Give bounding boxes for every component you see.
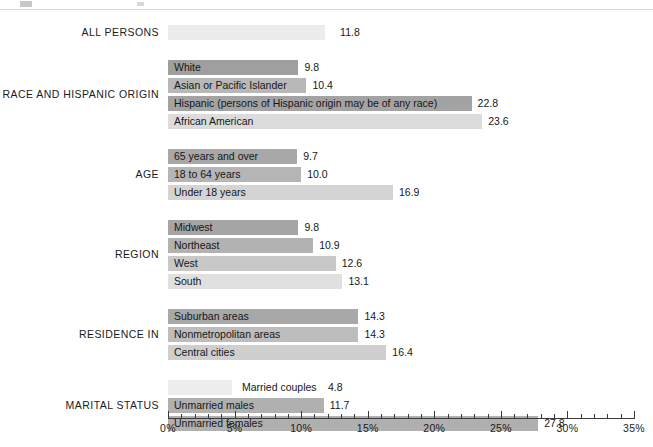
- bar-value-label: 4.8: [328, 380, 343, 395]
- x-axis-minor-tick: [341, 414, 342, 418]
- bar-row: Midwest9.8: [168, 220, 634, 235]
- bar-label: Suburban areas: [174, 309, 249, 324]
- bar-value-label: 22.8: [478, 96, 498, 111]
- x-axis-minor-tick: [594, 414, 595, 418]
- bar-label: West: [174, 256, 198, 271]
- x-axis-major-tick: [634, 411, 635, 418]
- x-axis-minor-tick: [541, 414, 542, 418]
- x-axis-minor-tick: [181, 414, 182, 418]
- x-axis-tick-label: 30%: [556, 422, 578, 434]
- x-axis-minor-tick: [461, 414, 462, 418]
- bar-row: Unmarried males11.7: [168, 398, 634, 413]
- bar-label: White: [174, 60, 201, 75]
- x-axis-major-tick: [501, 411, 502, 418]
- bar-row: Northeast10.9: [168, 238, 634, 253]
- poverty-rate-bar-chart: 11.8ALL PERSONSWhite9.8Asian or Pacific …: [0, 0, 653, 447]
- x-axis-minor-tick: [288, 414, 289, 418]
- x-axis-major-tick: [368, 411, 369, 418]
- x-axis-tick-label: 0%: [160, 422, 176, 434]
- bar-value-label: 11.7: [330, 398, 350, 413]
- group-label-marital-status: MARITAL STATUS: [0, 399, 159, 411]
- bar: [168, 380, 232, 395]
- bar-label: Midwest: [174, 220, 213, 235]
- x-axis-minor-tick: [208, 414, 209, 418]
- x-axis-tick-label: 10%: [290, 422, 312, 434]
- bar-label: Under 18 years: [174, 185, 246, 200]
- group-label-residence-in: RESIDENCE IN: [0, 328, 159, 340]
- x-axis-tick-label: 25%: [490, 422, 512, 434]
- x-axis-minor-tick: [488, 414, 489, 418]
- x-axis-minor-tick: [448, 414, 449, 418]
- x-axis-tick-label: 5%: [227, 422, 243, 434]
- x-axis-minor-tick: [514, 414, 515, 418]
- bar: [168, 25, 325, 40]
- bar-row: Asian or Pacific Islander10.4: [168, 78, 634, 93]
- bar-value-label: 11.8: [340, 25, 360, 40]
- bar-label: 18 to 64 years: [174, 167, 241, 182]
- group-label-region: REGION: [0, 248, 159, 260]
- bar-row: West12.6: [168, 256, 634, 271]
- bar-value-label: 14.3: [364, 309, 384, 324]
- bar-row: Nonmetropolitan areas14.3: [168, 327, 634, 342]
- x-axis-major-tick: [168, 411, 169, 418]
- bar-row: Married couples4.8: [168, 380, 634, 395]
- x-axis-tick-label: 35%: [623, 422, 645, 434]
- bar-value-label: 13.1: [348, 274, 368, 289]
- x-axis-minor-tick: [607, 414, 608, 418]
- bar-value-label: 16.9: [399, 185, 419, 200]
- x-axis-minor-tick: [195, 414, 196, 418]
- x-axis-major-tick: [567, 411, 568, 418]
- x-axis-line: [168, 418, 634, 419]
- x-axis-minor-tick: [581, 414, 582, 418]
- x-axis-minor-tick: [474, 414, 475, 418]
- x-axis-minor-tick: [261, 414, 262, 418]
- x-axis-minor-tick: [527, 414, 528, 418]
- x-axis-minor-tick: [314, 414, 315, 418]
- bar-row: Hispanic (persons of Hispanic origin may…: [168, 96, 634, 111]
- x-axis-minor-tick: [275, 414, 276, 418]
- bar-value-label: 12.6: [342, 256, 362, 271]
- x-axis-minor-tick: [328, 414, 329, 418]
- bar-value-label: 23.6: [488, 114, 508, 129]
- x-axis-tick-label: 15%: [357, 422, 379, 434]
- bar-row: 18 to 64 years10.0: [168, 167, 634, 182]
- bar-label: South: [174, 274, 201, 289]
- x-axis-minor-tick: [394, 414, 395, 418]
- bar-value-label: 9.8: [304, 220, 319, 235]
- x-axis-minor-tick: [221, 414, 222, 418]
- bar-value-label: 9.7: [303, 149, 318, 164]
- bar-row: 65 years and over9.7: [168, 149, 634, 164]
- group-label-age: AGE: [0, 168, 159, 180]
- bar-value-label: 9.8: [304, 60, 319, 75]
- bar-row: South13.1: [168, 274, 634, 289]
- bar-row: Central cities16.4: [168, 345, 634, 360]
- bar-row: 11.8: [168, 25, 634, 40]
- bar-row: Suburban areas14.3: [168, 309, 634, 324]
- bar-label: Unmarried males: [174, 398, 254, 413]
- x-axis-minor-tick: [408, 414, 409, 418]
- group-label-race-and-hispanic-origin: RACE AND HISPANIC ORIGIN: [0, 88, 159, 100]
- x-axis-tick-label: 20%: [423, 422, 445, 434]
- bar-row: African American23.6: [168, 114, 634, 129]
- x-axis-major-tick: [301, 411, 302, 418]
- bar-value-label: 10.0: [307, 167, 327, 182]
- x-axis-minor-tick: [354, 414, 355, 418]
- bar-label: Central cities: [174, 345, 235, 360]
- bar-label: 65 years and over: [174, 149, 258, 164]
- bar-value-label: 16.4: [392, 345, 412, 360]
- x-axis-minor-tick: [554, 414, 555, 418]
- x-axis-minor-tick: [621, 414, 622, 418]
- x-axis-major-tick: [235, 411, 236, 418]
- bar-value-label: 10.4: [312, 78, 332, 93]
- x-axis-minor-tick: [381, 414, 382, 418]
- bar-label: Hispanic (persons of Hispanic origin may…: [174, 96, 437, 111]
- bar-label: Northeast: [174, 238, 220, 253]
- bar-row: White9.8: [168, 60, 634, 75]
- x-axis-major-tick: [434, 411, 435, 418]
- bar-value-label: 14.3: [364, 327, 384, 342]
- bar-label: Married couples: [242, 380, 317, 395]
- bar-label: African American: [174, 114, 253, 129]
- group-label-all-persons: ALL PERSONS: [0, 26, 159, 38]
- x-axis-minor-tick: [421, 414, 422, 418]
- bar-label: Asian or Pacific Islander: [174, 78, 287, 93]
